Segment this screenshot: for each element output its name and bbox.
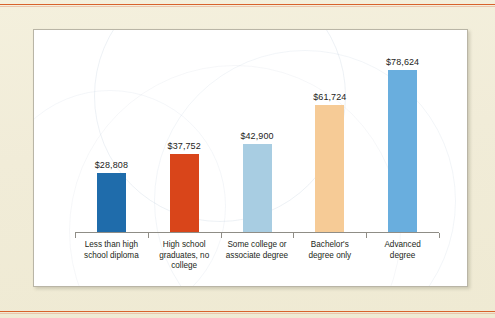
axis-tick <box>148 233 149 238</box>
axis-tick <box>293 233 294 238</box>
bar-column: $61,724 <box>295 42 365 232</box>
category-label: Less than high school diploma <box>69 240 153 261</box>
bar-chart-plot: $28,808 $37,752 $42,900 $61,724 <box>34 30 467 286</box>
bar-rect[interactable] <box>97 173 126 232</box>
category-label-line: Less than high <box>69 240 153 251</box>
bar-group[interactable]: $37,752 <box>149 42 219 232</box>
category-label: Advanced degree <box>361 240 445 261</box>
bottom-rule <box>0 311 495 312</box>
axis-tick <box>75 233 76 238</box>
bar-value-label: $37,752 <box>168 141 201 151</box>
bar-column: $37,752 <box>149 42 219 232</box>
bar-column: $42,900 <box>222 42 292 232</box>
bar-column: $28,808 <box>76 42 146 232</box>
category-label-line: degree only <box>288 251 372 262</box>
category-label-line: Bachelor's <box>288 240 372 251</box>
category-label-line: Some college or <box>215 240 299 251</box>
axis-tick <box>366 233 367 238</box>
bar-rect[interactable] <box>315 105 344 232</box>
bar-value-label: $42,900 <box>240 131 273 141</box>
category-label-line: Advanced <box>361 240 445 251</box>
bar-rect[interactable] <box>170 154 199 232</box>
bar-group[interactable]: $78,624 <box>368 42 438 232</box>
x-axis-line <box>75 232 439 233</box>
axis-tick <box>221 233 222 238</box>
bar-value-label: $28,808 <box>95 160 128 170</box>
axis-tick <box>439 233 440 238</box>
chart-panel: $28,808 $37,752 $42,900 $61,724 <box>33 29 468 287</box>
category-label: High school graduates, no college <box>142 240 226 272</box>
top-rule <box>0 4 495 5</box>
category-label-line: High school <box>142 240 226 251</box>
category-label: Some college or associate degree <box>215 240 299 261</box>
category-label-line: college <box>142 261 226 272</box>
category-label: Bachelor's degree only <box>288 240 372 261</box>
bar-group[interactable]: $61,724 <box>295 42 365 232</box>
bar-group[interactable]: $42,900 <box>222 42 292 232</box>
bar-group[interactable]: $28,808 <box>76 42 146 232</box>
top-rule-secondary <box>0 6 495 7</box>
bar-value-label: $61,724 <box>313 92 346 102</box>
bottom-rule-secondary <box>0 313 495 314</box>
category-label-line: graduates, no <box>142 251 226 262</box>
page-background: $28,808 $37,752 $42,900 $61,724 <box>0 0 495 318</box>
category-label-line: associate degree <box>215 251 299 262</box>
bar-column: $78,624 <box>368 42 438 232</box>
bar-value-label: $78,624 <box>386 57 419 67</box>
bar-rect[interactable] <box>243 144 272 232</box>
category-label-line: school diploma <box>69 251 153 262</box>
category-label-line: degree <box>361 251 445 262</box>
bar-rect[interactable] <box>388 70 417 232</box>
